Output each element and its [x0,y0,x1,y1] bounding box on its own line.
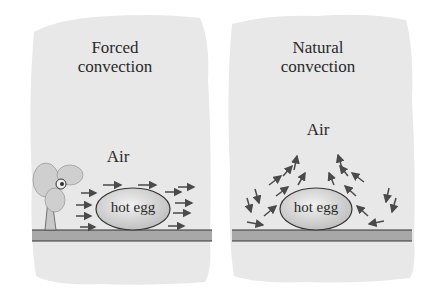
title-line-1: Natural [218,38,418,57]
ground-surface [32,230,212,241]
title-line-2: convection [218,57,418,76]
natural-title: Natural convection [218,38,418,76]
forced-title: Forced convection [15,38,215,76]
ground-surface [232,230,412,241]
egg-label: hot egg [96,199,170,216]
air-label: Air [218,120,418,140]
air-label: Air [18,147,218,167]
natural-convection-panel: Natural convection Air hot egg [218,0,435,298]
forced-convection-panel: Forced convection Air hot egg [0,0,218,298]
title-line-1: Forced [15,38,215,57]
egg-label: hot egg [280,199,352,216]
title-line-2: convection [15,57,215,76]
